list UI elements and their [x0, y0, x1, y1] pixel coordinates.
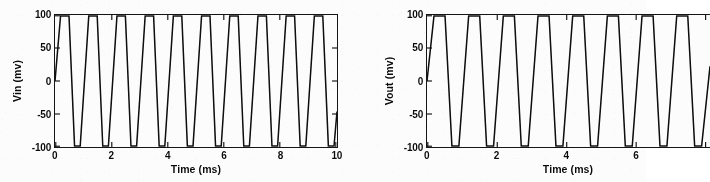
y-tick-label: 100 — [377, 9, 423, 20]
x-axis-label-vin: Time (ms) — [171, 163, 221, 175]
waveform-trace-vout — [427, 16, 710, 146]
x-tick-label: 0 — [424, 150, 429, 161]
x-tick-label: 0 — [52, 150, 57, 161]
y-tick-label: -50 — [377, 109, 423, 120]
waveform-plot-vout — [427, 15, 710, 147]
waveform-plot-vin — [55, 15, 337, 147]
y-tick-label: -100 — [5, 142, 51, 153]
x-tick-label: 10 — [331, 150, 342, 161]
y-tick-label: 50 — [5, 42, 51, 53]
x-axis-label-vout: Time (ms) — [543, 163, 593, 175]
x-tick-label: 6 — [221, 150, 226, 161]
y-axis-ticklabels-left: 100 50 0 -50 -100 — [0, 0, 51, 182]
y-axis-ticklabels-right: 100 50 0 -50 -100 — [372, 0, 423, 182]
y-tick-label: 50 — [377, 42, 423, 53]
x-tick-label: 4 — [165, 150, 170, 161]
y-tick-label: 0 — [377, 76, 423, 87]
plot-area-vout — [426, 14, 710, 148]
x-tick-label: 4 — [564, 150, 569, 161]
x-tick-label: 8 — [278, 150, 283, 161]
y-tick-label: 0 — [5, 76, 51, 87]
x-tick-label: 2 — [494, 150, 499, 161]
plot-area-vin — [54, 14, 338, 148]
x-tick-label: 6 — [633, 150, 638, 161]
chart-panel-vout: Vout (mv) 100 50 0 -50 -100 — [372, 0, 646, 182]
y-tick-label: -100 — [377, 142, 423, 153]
chart-panel-vin: Vin (mv) 100 50 0 -50 -100 — [0, 0, 346, 182]
y-tick-label: 100 — [5, 9, 51, 20]
x-tick-label: 2 — [109, 150, 114, 161]
y-tick-label: -50 — [5, 109, 51, 120]
waveform-trace-vin — [55, 16, 337, 146]
